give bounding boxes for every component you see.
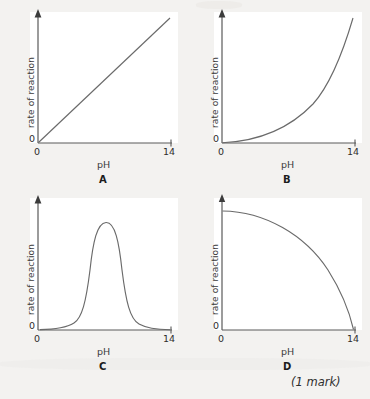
y-axis-arrow-c	[35, 195, 42, 204]
y-axis-label-b: rate of reaction	[210, 57, 220, 128]
x-max-label-b: 14	[347, 146, 359, 157]
graph-panel-a: rate of reaction 0 0 14 pH A	[0, 0, 150, 180]
x-axis-label-b: pH	[281, 159, 294, 170]
y-axis-arrow-a	[35, 9, 42, 18]
panel-letter-d: D	[283, 361, 291, 372]
x-axis-label-c: pH	[97, 346, 110, 357]
x-max-label-d: 14	[347, 333, 359, 344]
y-axis-label-d: rate of reaction	[210, 244, 220, 315]
x-max-label-c: 14	[163, 333, 175, 344]
curve-b	[223, 18, 354, 143]
graph-panel-c: rate of reaction 0 0 14 pH C	[0, 190, 150, 370]
marks-note: (1 mark)	[291, 375, 341, 389]
x-zero-label-c: 0	[34, 333, 40, 344]
curve-a	[39, 18, 171, 143]
worksheet-page: rate of reaction 0 0 14 pH A rate of rea…	[0, 0, 370, 399]
x-axis-label-d: pH	[281, 346, 294, 357]
y-axis-label-a: rate of reaction	[26, 57, 36, 128]
panel-letter-c: C	[99, 361, 106, 372]
x-zero-label-b: 0	[218, 146, 224, 157]
y-zero-label-b: 0	[213, 133, 219, 144]
curve-d	[223, 211, 354, 330]
curve-c	[40, 222, 170, 329]
graph-panel-d: rate of reaction 0 0 14 pH D	[185, 190, 335, 370]
graph-panel-b: rate of reaction 0 0 14 pH B	[185, 0, 335, 180]
x-max-label-a: 14	[163, 146, 175, 157]
y-zero-label-c: 0	[29, 320, 35, 331]
y-axis-arrow-d	[219, 194, 225, 202]
x-axis-label-a: pH	[97, 159, 110, 170]
panel-letter-b: B	[283, 174, 291, 185]
y-axis-arrow-b	[219, 9, 226, 18]
x-zero-label-d: 0	[218, 333, 224, 344]
y-zero-label-d: 0	[213, 320, 219, 331]
x-zero-label-a: 0	[34, 146, 40, 157]
panel-letter-a: A	[99, 174, 107, 185]
y-zero-label-a: 0	[29, 133, 35, 144]
y-axis-label-c: rate of reaction	[26, 244, 36, 315]
